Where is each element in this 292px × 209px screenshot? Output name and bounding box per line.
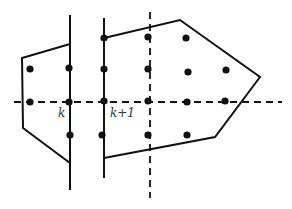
lattice-point: [65, 98, 72, 105]
lattice-point: [98, 131, 105, 138]
lattice-point: [183, 131, 190, 138]
lattice-polygon-diagram: k k+1: [0, 0, 292, 209]
lattice-point: [183, 98, 190, 105]
lattice-point: [184, 68, 191, 75]
lattice-point: [221, 97, 228, 104]
right-polygon: [104, 20, 260, 158]
lattice-point: [26, 98, 33, 105]
lattice-point: [144, 131, 151, 138]
lattice-point: [222, 66, 229, 73]
polygons: [22, 20, 260, 163]
lattice-point: [144, 33, 151, 40]
label-k: k: [58, 106, 65, 120]
lattice-point: [100, 34, 107, 41]
lattice-point: [100, 65, 107, 72]
lattice-points: [26, 33, 229, 138]
label-k-plus-1: k+1: [110, 106, 135, 120]
lattice-point: [66, 131, 73, 138]
lattice-point: [65, 64, 72, 71]
lattice-point: [144, 97, 151, 104]
lattice-point: [26, 65, 33, 72]
lattice-point: [144, 65, 151, 72]
lattice-point: [100, 97, 107, 104]
lattice-point: [182, 34, 189, 41]
